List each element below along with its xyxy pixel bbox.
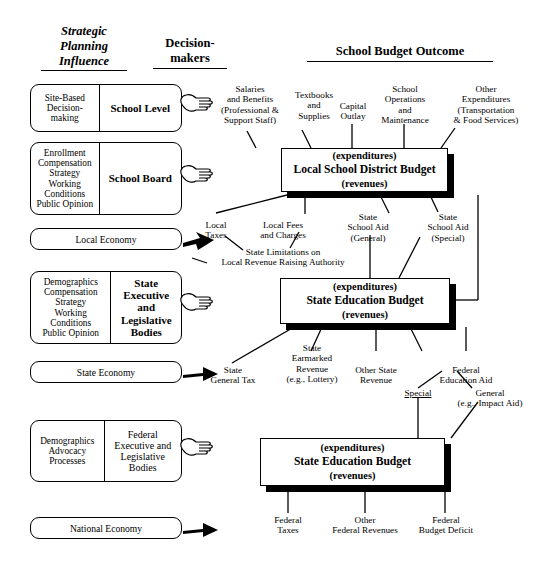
influence-row-federal-executive[interactable]: Demographics Advocacy Processes Federal … — [30, 420, 182, 482]
economy-label: National Economy — [70, 523, 142, 534]
budget-box-title: State Education Budget — [306, 294, 423, 309]
influence-factors: Demographics Compensation Strategy Worki… — [31, 272, 110, 343]
decision-maker-line: Legislative — [121, 451, 165, 462]
factor-line: Enrollment — [44, 148, 86, 158]
heading-line: Planning — [24, 39, 144, 54]
decision-maker-line: School Level — [110, 102, 170, 114]
influence-factors: Enrollment Compensation Strategy Working… — [31, 143, 99, 214]
label-line: Revenue — [277, 364, 347, 374]
label-other-state-revenue: Other State Revenue — [343, 365, 409, 386]
budget-box-expenditures-label: (expenditures) — [333, 149, 397, 162]
budget-box-revenues-label: (revenues) — [342, 177, 388, 190]
label-line: Taxes — [258, 525, 318, 535]
budget-box-local-school-district[interactable]: (expenditures) Local School District Bud… — [281, 148, 448, 192]
label-federal-education-aid: Federal Education Aid — [419, 365, 513, 386]
heading-line: Strategic — [24, 24, 144, 39]
budget-box-state-education[interactable]: (expenditures) State Education Budget (r… — [280, 278, 450, 324]
label-line: Outlay — [329, 111, 377, 121]
pointing-hand-icon — [181, 439, 212, 455]
influence-row-school-board[interactable]: Enrollment Compensation Strategy Working… — [30, 142, 182, 215]
economy-label: State Economy — [77, 367, 135, 378]
label-line: School Aid — [332, 222, 404, 232]
factor-line: Demographics — [40, 436, 94, 446]
decision-maker-line: Legislative — [121, 314, 172, 326]
factor-line: Strategy — [55, 297, 86, 307]
economy-bar-national[interactable]: National Economy — [30, 517, 182, 539]
budget-box-federal-education[interactable]: (expenditures) State Education Budget (r… — [260, 438, 445, 486]
label-line: (Transportation — [437, 105, 535, 115]
heading-underline — [41, 70, 127, 71]
factor-line: Working — [49, 179, 81, 189]
arrow-right-icon — [183, 523, 218, 537]
factor-line: Compensation — [38, 158, 92, 168]
label-line: Federal — [258, 515, 318, 525]
label-line: Other — [437, 84, 535, 94]
label-state-earmarked-revenue: State Earmarked Revenue (e.g., Lottery) — [277, 343, 347, 384]
label-line: Earmarked — [277, 353, 347, 363]
budget-box-title: Local School District Budget — [293, 163, 435, 178]
label-state-school-aid-general: State School Aid (General) — [332, 212, 404, 243]
decision-maker-state-executive: State Executive and Legislative Bodies — [110, 272, 181, 343]
heading-line: Influence — [24, 54, 144, 69]
decision-maker-line: and — [137, 301, 155, 313]
economy-bar-local[interactable]: Local Economy — [30, 228, 182, 250]
label-federal-aid-special: Special — [393, 388, 443, 398]
factor-line: Site-Based — [45, 93, 85, 103]
label-line: Taxes — [193, 230, 239, 240]
label-line: Salaries — [208, 84, 292, 94]
label-line: and Charges — [247, 230, 319, 240]
heading-line: School Budget Outcome — [300, 44, 500, 59]
heading-line: makers — [138, 51, 242, 66]
label-line: Federal — [403, 515, 489, 525]
decision-maker-line: Bodies — [131, 326, 162, 338]
label-line: (Professional & — [208, 105, 292, 115]
label-line: Local Revenue Raising Authority — [198, 257, 368, 267]
influence-row-state-executive[interactable]: Demographics Compensation Strategy Worki… — [30, 271, 182, 344]
label-other-expenditures: Other Expenditures (Transportation & Foo… — [437, 84, 535, 125]
label-line: Expenditures — [437, 94, 535, 104]
factor-line: Compensation — [44, 287, 98, 297]
budget-box-revenues-label: (revenues) — [330, 469, 376, 482]
label-line: Maintenance — [371, 115, 439, 125]
label-line: Education Aid — [419, 375, 513, 385]
label-line: (e.g., Lottery) — [277, 374, 347, 384]
label-line: Federal Revenues — [316, 525, 414, 535]
label-line: State — [332, 212, 404, 222]
label-federal-aid-general: General (e.g., Impact Aid) — [448, 388, 532, 409]
influence-factors: Demographics Advocacy Processes — [31, 421, 104, 481]
factor-line: Conditions — [44, 189, 85, 199]
influence-factors: Site-Based Decision- making — [31, 85, 99, 131]
label-state-school-aid-special: State School Aid (Special) — [412, 212, 484, 243]
diagram-canvas: Strategic Planning Influence Decision- m… — [0, 0, 539, 562]
label-line: School — [371, 84, 439, 94]
label-line: Local Fees — [247, 220, 319, 230]
decision-maker-line: School Board — [109, 172, 172, 184]
decision-maker-line: Bodies — [129, 462, 157, 473]
label-salaries-and-benefits: Salaries and Benefits (Professional & Su… — [208, 84, 292, 125]
influence-row-school-level[interactable]: Site-Based Decision- making School Level — [30, 84, 182, 132]
label-line: (Special) — [412, 233, 484, 243]
label-state-limitations: State Limitations on Local Revenue Raisi… — [198, 247, 368, 268]
budget-box-expenditures-label: (expenditures) — [321, 441, 385, 454]
label-line: Operations — [371, 94, 439, 104]
label-note: (e.g., Impact Aid) — [448, 398, 532, 408]
decision-maker-line: Federal — [128, 429, 158, 440]
budget-box-revenues-label: (revenues) — [342, 308, 388, 321]
decision-maker-federal-executive: Federal Executive and Legislative Bodies — [104, 421, 181, 481]
label-line: Capital — [329, 101, 377, 111]
label-local-fees-and-charges: Local Fees and Charges — [247, 220, 319, 241]
label-line: Local — [193, 220, 239, 230]
label-line: School Aid — [412, 222, 484, 232]
label-other-federal-revenues: Other Federal Revenues — [316, 515, 414, 536]
factor-line: Public Opinion — [42, 328, 99, 338]
heading-line: Decision- — [138, 36, 242, 51]
heading-underline — [153, 68, 227, 69]
decision-maker-line: Executive and — [114, 440, 171, 451]
label-line: State — [200, 365, 266, 375]
economy-bar-state[interactable]: State Economy — [30, 361, 182, 383]
heading-decision-makers: Decision- makers — [138, 36, 242, 69]
label-federal-budget-deficit: Federal Budget Deficit — [403, 515, 489, 536]
heading-school-budget-outcome: School Budget Outcome — [300, 44, 500, 62]
label-school-operations: School Operations and Maintenance — [371, 84, 439, 125]
label-line: State — [277, 343, 347, 353]
